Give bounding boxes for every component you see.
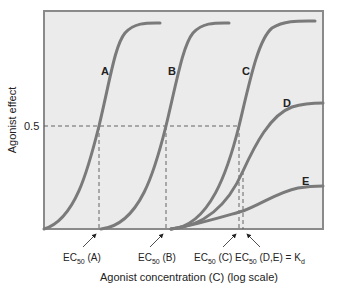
x-axis-label: Agonist concentration (C) (log scale) [100, 271, 278, 283]
ec50-de-kd-label: EC50 (D,E) = Kd [235, 252, 305, 265]
arrow-ec50-c [223, 234, 236, 247]
curve-label-a: A [101, 65, 109, 77]
dose-response-chart: A B C D E 0.5 Agonist effect EC50 (A) EC… [0, 0, 343, 290]
curve-label-c: C [242, 65, 250, 77]
y-axis-label: Agonist effect [6, 87, 18, 153]
arrow-ec50-b [150, 234, 163, 247]
curve-label-e: E [302, 175, 309, 187]
curve-label-d: D [283, 97, 291, 109]
arrow-ec50-de [247, 234, 260, 247]
plot-area [44, 11, 323, 229]
ec50-c-label: EC50 (C) [194, 252, 232, 265]
y-tick-0-5: 0.5 [24, 120, 39, 132]
arrow-ec50-a [83, 234, 96, 247]
ec50-b-label: EC50 (B) [138, 252, 176, 265]
ec50-a-label: EC50 (A) [63, 252, 101, 265]
curve-label-b: B [168, 65, 176, 77]
